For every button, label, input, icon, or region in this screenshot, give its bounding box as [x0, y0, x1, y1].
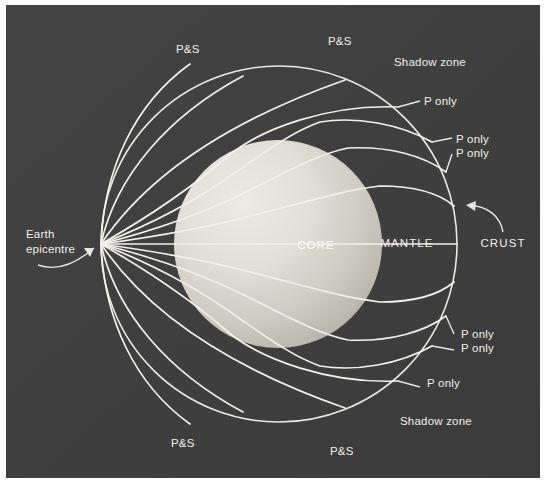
label-p-only-bottom-1: P only [461, 328, 494, 340]
label-earth-epicentre-line2: epicentre [26, 243, 75, 255]
label-p-only-top-2: P only [456, 133, 489, 145]
label-p-only-top-3: P only [456, 147, 489, 159]
label-ps-top-left: P&S [176, 43, 200, 55]
seismic-diagram-figure: Earth epicentre CORE MANTLE CRUST P&S P&… [0, 0, 548, 494]
label-p-only-bottom-3: P only [427, 377, 460, 389]
label-crust: CRUST [480, 237, 525, 249]
label-earth-epicentre-line1: Earth [26, 228, 55, 240]
label-p-only-top-1: P only [424, 95, 457, 107]
label-core: CORE [297, 239, 335, 251]
label-shadow-zone-top: Shadow zone [394, 56, 466, 68]
label-ps-top-right: P&S [328, 35, 352, 47]
label-shadow-zone-bottom: Shadow zone [400, 415, 472, 427]
diagram-canvas: Earth epicentre CORE MANTLE CRUST P&S P&… [0, 0, 548, 494]
label-p-only-bottom-2: P only [461, 342, 494, 354]
label-ps-bottom-right: P&S [330, 445, 354, 457]
label-mantle: MANTLE [380, 237, 433, 249]
label-ps-bottom-left: P&S [171, 437, 195, 449]
